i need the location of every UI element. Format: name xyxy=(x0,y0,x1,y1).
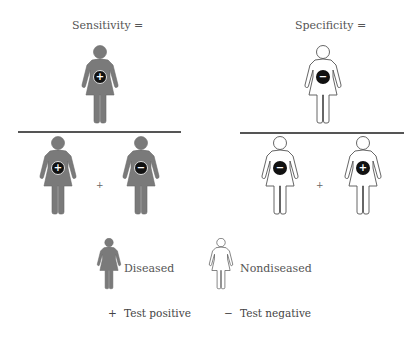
legend-positive-symbol: + xyxy=(108,307,117,319)
denominator-nondiseased-negative-figure: − xyxy=(260,136,300,216)
test-negative-badge: − xyxy=(134,161,148,175)
legend-nondiseased-label: Nondiseased xyxy=(240,262,312,275)
numerator-diseased-positive-figure: + xyxy=(80,45,120,125)
nondiseased-person-icon xyxy=(208,238,234,290)
test-positive-badge: + xyxy=(51,161,65,175)
nondiseased-person-icon xyxy=(343,136,383,216)
specificity-fraction-bar xyxy=(240,132,404,134)
legend-negative-label: Test negative xyxy=(240,307,311,319)
diseased-person-icon xyxy=(38,136,78,216)
test-positive-badge: + xyxy=(93,70,107,84)
plus-operator: + xyxy=(96,180,104,190)
specificity-title: Specificity = xyxy=(295,19,366,32)
sensitivity-title: Sensitivity = xyxy=(72,19,143,32)
denominator-diseased-negative-figure: − xyxy=(121,136,161,216)
diseased-person-icon xyxy=(121,136,161,216)
nondiseased-person-icon xyxy=(260,136,300,216)
diseased-person-icon xyxy=(80,45,120,125)
test-negative-badge: − xyxy=(316,70,330,84)
numerator-nondiseased-negative-figure: − xyxy=(303,45,343,125)
plus-operator: + xyxy=(316,180,324,190)
test-negative-badge: − xyxy=(273,161,287,175)
legend-nondiseased-figure xyxy=(208,238,234,290)
nondiseased-person-icon xyxy=(303,45,343,125)
legend-diseased-label: Diseased xyxy=(124,262,174,275)
diseased-person-icon xyxy=(96,238,122,290)
legend-negative-symbol: − xyxy=(224,307,233,319)
denominator-diseased-positive-figure: + xyxy=(38,136,78,216)
denominator-nondiseased-positive-figure: + xyxy=(343,136,383,216)
test-positive-badge: + xyxy=(356,161,370,175)
legend-positive-label: Test positive xyxy=(124,307,191,319)
sensitivity-fraction-bar xyxy=(18,131,181,133)
legend-diseased-figure xyxy=(96,238,122,290)
